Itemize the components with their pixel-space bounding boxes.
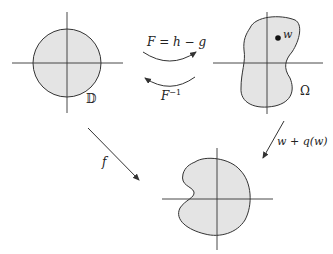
omega-domain: w Ω bbox=[213, 12, 323, 114]
point-w-label: w bbox=[283, 28, 293, 41]
omega-label: Ω bbox=[300, 84, 310, 98]
forward-map-label: F = h − g bbox=[146, 35, 206, 49]
unit-disk: 𝔻 bbox=[12, 12, 123, 113]
forward-arrow bbox=[143, 52, 196, 61]
f-map: f bbox=[88, 128, 139, 180]
f-arrow bbox=[88, 128, 139, 180]
image-domain bbox=[162, 148, 273, 250]
inverse-arrow bbox=[145, 77, 195, 86]
inverse-map: F−1 bbox=[145, 77, 195, 103]
disk-label: 𝔻 bbox=[86, 92, 96, 106]
point-w bbox=[275, 35, 281, 41]
f-map-label: f bbox=[101, 155, 109, 169]
q-map-label: w + q(w) bbox=[277, 135, 328, 148]
q-map: w + q(w) bbox=[263, 121, 328, 158]
inverse-map-label: F−1 bbox=[160, 88, 181, 103]
mapping-diagram: 𝔻 F = h − g F−1 w Ω f w + q(w) bbox=[0, 0, 333, 254]
forward-map: F = h − g bbox=[143, 35, 206, 61]
